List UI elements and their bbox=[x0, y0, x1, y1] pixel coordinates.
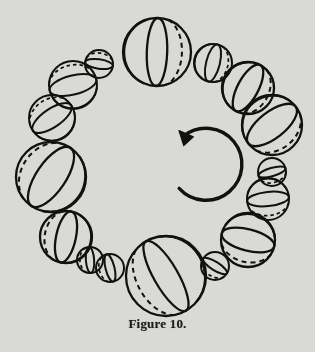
figure-10-illustration: Figure 10. bbox=[0, 0, 315, 352]
sphere-ring-diagram bbox=[0, 0, 315, 352]
sphere-large-6-great-circle-front bbox=[219, 223, 277, 257]
sphere-small-1-great-circle-front bbox=[202, 43, 224, 83]
sphere-large-3 bbox=[232, 85, 310, 163]
sphere-bottom-large-great-circle-front bbox=[136, 235, 197, 316]
sphere-large-3-meridian-solid bbox=[232, 85, 288, 135]
spheres-layer bbox=[7, 18, 310, 324]
rotation-arrow-layer bbox=[179, 128, 242, 200]
sphere-small-15 bbox=[84, 50, 113, 78]
sphere-top-large-meridian-solid bbox=[123, 19, 147, 84]
sphere-small-15-great-circle-front bbox=[84, 57, 113, 70]
sphere-large-11 bbox=[40, 208, 96, 266]
sphere-small-15-outline bbox=[85, 50, 113, 78]
sphere-left-large-great-circle-back-dashed bbox=[7, 132, 61, 198]
sphere-left-large bbox=[7, 132, 97, 223]
sphere-small-4 bbox=[257, 158, 287, 186]
figure-caption: Figure 10. bbox=[0, 316, 315, 332]
sphere-small-9-great-circle-front bbox=[102, 253, 117, 282]
sphere-left-large-meridian-solid bbox=[42, 156, 97, 223]
sphere-top-large-great-circle-front bbox=[146, 18, 169, 87]
sphere-bottom-large-meridian-solid bbox=[159, 224, 218, 302]
sphere-top-large bbox=[123, 18, 191, 87]
sphere-small-5-great-circle-front bbox=[246, 190, 289, 209]
